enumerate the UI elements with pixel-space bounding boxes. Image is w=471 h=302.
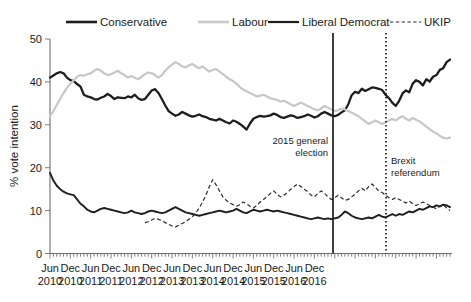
annotation-line-1: Brexit xyxy=(391,155,416,166)
legend-item-conservative[interactable]: Conservative xyxy=(66,16,167,28)
x-tick-label-month: Jun xyxy=(82,262,100,274)
series-line-liberal_democrat xyxy=(50,173,450,219)
y-axis-ticks: 01020304050 xyxy=(30,33,50,260)
legend-item-labour[interactable]: Labour xyxy=(198,16,268,28)
y-tick-label: 0 xyxy=(36,248,42,260)
y-axis-title: % vote intention xyxy=(8,105,20,187)
x-tick-label-month: Dec xyxy=(223,262,243,274)
x-tick-label-month: Jun xyxy=(122,262,140,274)
y-tick-label: 10 xyxy=(30,205,42,217)
y-tick-label: 50 xyxy=(30,33,42,45)
legend-item-ukip[interactable]: UKIP xyxy=(390,16,451,28)
x-tick-label-month: Dec xyxy=(61,262,81,274)
x-tick-label-month: Jun xyxy=(245,262,263,274)
x-tick-label-month: Dec xyxy=(264,262,284,274)
y-tick-label: 30 xyxy=(30,119,42,131)
legend-label-liberal_democrat: Liberal Democrat xyxy=(302,16,390,28)
chart-series xyxy=(50,60,450,227)
chart-event-markers xyxy=(333,33,386,254)
y-tick-label: 40 xyxy=(30,76,42,88)
x-tick-label-month: Jun xyxy=(41,262,59,274)
x-axis-ticks: Jun2010Dec2010Jun2011Dec2011Jun2012Dec20… xyxy=(38,254,450,287)
x-tick-label-month: Dec xyxy=(142,262,162,274)
chart-root: ConservativeLabourLiberal DemocratUKIP 0… xyxy=(0,0,471,302)
legend-label-conservative: Conservative xyxy=(100,16,167,28)
x-tick-label-month: Jun xyxy=(204,262,222,274)
x-tick-label-month: Jun xyxy=(163,262,181,274)
x-tick-label-year: 2016 xyxy=(302,275,326,287)
legend-label-ukip: UKIP xyxy=(424,16,451,28)
x-tick-label-month: Dec xyxy=(183,262,203,274)
annotation-brexit_referendum: Brexitreferendum xyxy=(391,155,440,178)
x-tick-label-month: Jun xyxy=(285,262,303,274)
annotation-line-1: 2015 general xyxy=(273,135,328,146)
annotation-line-2: election xyxy=(295,147,328,158)
annotation-line-2: referendum xyxy=(391,167,440,178)
chart-legend: ConservativeLabourLiberal DemocratUKIP xyxy=(66,16,451,28)
series-line-ukip xyxy=(145,180,450,227)
x-tick-label-month: Dec xyxy=(305,262,325,274)
vote-intention-line-chart: ConservativeLabourLiberal DemocratUKIP 0… xyxy=(0,0,471,302)
y-tick-label: 20 xyxy=(30,162,42,174)
annotation-general_election: 2015 generalelection xyxy=(273,135,328,158)
chart-axes xyxy=(50,39,452,254)
chart-annotations: 2015 generalelectionBrexitreferendum xyxy=(273,135,440,178)
legend-label-labour: Labour xyxy=(232,16,268,28)
x-tick-label-month: Dec xyxy=(101,262,121,274)
legend-item-liberal_democrat[interactable]: Liberal Democrat xyxy=(268,16,390,28)
